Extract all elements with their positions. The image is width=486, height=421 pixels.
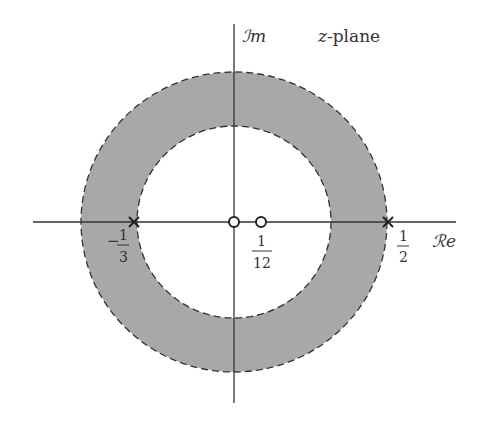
zero-o-icon	[256, 217, 266, 227]
pole-label-numerator: 1	[399, 228, 408, 244]
zero-label-numerator: 1	[257, 233, 266, 249]
pole-label-denominator: 2	[399, 249, 408, 265]
zero-o-icon	[229, 217, 239, 227]
pole-label-numerator: 1	[119, 227, 128, 243]
zero-label-denominator: 12	[253, 255, 271, 271]
imaginary-axis-label: ℐm	[242, 26, 266, 46]
real-axis-label: ℛe	[432, 231, 456, 251]
pole-zero-plot: ℐm z-plane ℛe − 1 3 1 12 1 2	[0, 0, 486, 421]
pole-label-sign: −	[107, 232, 120, 250]
pole-label-denominator: 3	[119, 249, 128, 265]
plane-label: z-plane	[317, 26, 380, 46]
